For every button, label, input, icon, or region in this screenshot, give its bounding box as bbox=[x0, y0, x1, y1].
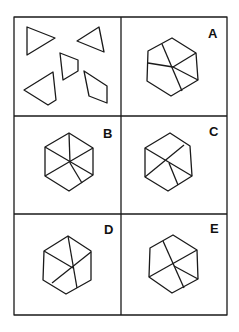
option-d-figure[interactable] bbox=[43, 236, 91, 294]
option-c-figure[interactable] bbox=[145, 133, 192, 191]
piece-triangle-1 bbox=[27, 27, 55, 55]
option-b-label: B bbox=[103, 126, 112, 141]
option-e-figure[interactable] bbox=[149, 235, 198, 293]
option-c-label: C bbox=[209, 124, 218, 139]
option-a-figure[interactable] bbox=[147, 38, 198, 96]
option-a-label: A bbox=[208, 26, 217, 41]
option-b-figure[interactable] bbox=[45, 133, 93, 191]
option-e-label: E bbox=[210, 221, 219, 236]
question-pieces bbox=[24, 27, 107, 105]
piece-triangle-2 bbox=[77, 27, 104, 52]
piece-quad bbox=[84, 71, 107, 103]
option-d-label: D bbox=[104, 222, 113, 237]
puzzle-grid bbox=[0, 0, 239, 332]
piece-triangle-3 bbox=[24, 72, 56, 105]
piece-trapezoid bbox=[60, 53, 78, 80]
